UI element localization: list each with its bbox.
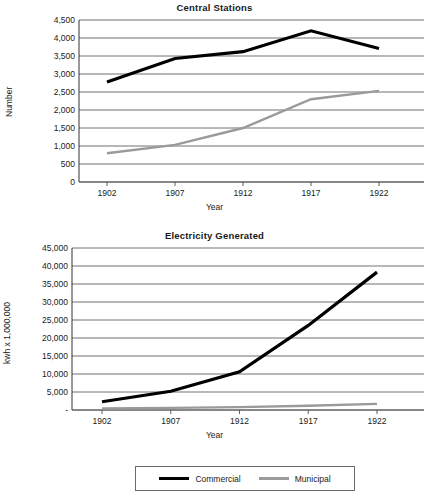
y-axis-ticks-bottom: -5,00010,00015,00020,00025,00030,00035,0… <box>14 248 68 410</box>
x-axis-tick-label: 1902 <box>98 188 117 198</box>
y-axis-label-kwh: kwh x 1,000,000 <box>2 278 12 388</box>
y-axis-tick-label: 2,500 <box>54 87 75 97</box>
y-axis-label-number: Number <box>4 62 14 142</box>
plot-area-electricity-generated <box>72 248 424 410</box>
x-axis-tick-label: 1917 <box>299 416 318 426</box>
x-axis-tick-label: 1922 <box>368 416 387 426</box>
y-axis-tick-label: 500 <box>61 159 75 169</box>
y-axis-tick-label: 1,000 <box>54 141 75 151</box>
y-axis-tick-label: 1,500 <box>54 123 75 133</box>
legend-label-commercial: Commercial <box>195 474 240 484</box>
y-axis-tick-label: 10,000 <box>42 369 68 379</box>
x-axis-tick-label: 1907 <box>161 416 180 426</box>
x-axis-tick-label: 1912 <box>230 416 249 426</box>
series-line-municipal <box>107 91 379 153</box>
y-axis-tick-label: 5,000 <box>47 387 68 397</box>
x-axis-tick-label: 1912 <box>234 188 253 198</box>
legend-swatch-commercial-icon <box>159 477 189 481</box>
y-axis-tick-label: 0 <box>70 177 75 187</box>
y-axis-tick-label: - <box>65 405 68 415</box>
y-axis-tick-label: 25,000 <box>42 315 68 325</box>
plot-svg-central-stations <box>79 20 424 182</box>
y-axis-tick-label: 45,000 <box>42 243 68 253</box>
chart-title-electricity-generated: Electricity Generated <box>0 230 429 241</box>
x-axis-ticks-top: 19021907191219171922 <box>79 188 424 202</box>
x-axis-tick-label: 1902 <box>93 416 112 426</box>
legend-item-commercial: Commercial <box>159 474 240 484</box>
x-axis-tick-label: 1922 <box>370 188 389 198</box>
chart-central-stations: Central Stations Number 05001,0001,5002,… <box>0 0 429 228</box>
x-axis-tick-label: 1917 <box>302 188 321 198</box>
y-axis-tick-label: 4,500 <box>54 15 75 25</box>
y-axis-tick-label: 35,000 <box>42 279 68 289</box>
legend-label-municipal: Municipal <box>295 474 331 484</box>
y-axis-tick-label: 2,000 <box>54 105 75 115</box>
y-axis-tick-label: 4,000 <box>54 33 75 43</box>
y-axis-tick-label: 40,000 <box>42 261 68 271</box>
y-axis-tick-label: 20,000 <box>42 333 68 343</box>
chart-electricity-generated: Electricity Generated kwh x 1,000,000 -5… <box>0 228 429 456</box>
legend-item-municipal: Municipal <box>259 474 331 484</box>
chart-legend: Commercial Municipal <box>135 466 355 491</box>
x-axis-ticks-bottom: 19021907191219171922 <box>72 416 424 430</box>
y-axis-tick-label: 3,500 <box>54 51 75 61</box>
y-axis-ticks-top: 05001,0001,5002,0002,5003,0003,5004,0004… <box>28 20 75 182</box>
plot-svg-electricity-generated <box>72 248 424 410</box>
series-line-commercial <box>102 272 377 402</box>
plot-area-central-stations <box>79 20 424 182</box>
chart-title-central-stations: Central Stations <box>0 2 429 13</box>
y-axis-tick-label: 15,000 <box>42 351 68 361</box>
series-line-municipal <box>102 404 377 409</box>
x-axis-tick-label: 1907 <box>166 188 185 198</box>
x-axis-label-year-top: Year <box>0 202 429 212</box>
y-axis-tick-label: 30,000 <box>42 297 68 307</box>
legend-swatch-municipal-icon <box>259 477 289 480</box>
x-axis-label-year-bottom: Year <box>0 430 429 440</box>
y-axis-tick-label: 3,000 <box>54 69 75 79</box>
